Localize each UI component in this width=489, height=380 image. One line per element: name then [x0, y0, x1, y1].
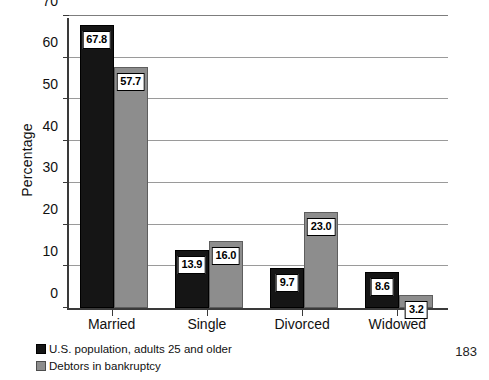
x-tick-label-divorced: Divorced [275, 316, 330, 332]
y-tick-mark-40 [63, 140, 69, 141]
gridline-70 [69, 15, 448, 16]
bar-married-series2: 57.7 [114, 67, 148, 308]
y-tick-label-50: 50 [42, 76, 58, 92]
bar-value-label: 9.7 [276, 274, 299, 292]
bar-divorced-series1: 9.7 [270, 268, 304, 308]
y-axis-title: Percentage [19, 80, 35, 240]
bar-widowed-series2: 3.2 [399, 295, 433, 308]
bar-value-label: 57.7 [116, 73, 145, 91]
x-tick-label-single: Single [187, 316, 226, 332]
chart-legend: U.S. population, adults 25 and older Deb… [36, 341, 232, 375]
y-tick-label-0: 0 [50, 285, 58, 301]
x-tick-label-widowed: Widowed [369, 316, 427, 332]
bar-value-label: 16.0 [212, 247, 241, 265]
y-tick-mark-20 [63, 224, 69, 225]
legend-label-debtors: Debtors in bankruptcy [49, 360, 161, 372]
page-number: 183 [455, 344, 477, 359]
plot-area: 01020304050607067.857.713.916.09.723.08.… [67, 18, 448, 310]
legend-swatch-dark [36, 344, 46, 354]
bar-single-series1: 13.9 [175, 250, 209, 308]
y-tick-label-30: 30 [42, 159, 58, 175]
y-tick-mark-60 [63, 57, 69, 58]
bar-value-label: 8.6 [371, 278, 394, 296]
bar-widowed-series1: 8.6 [365, 272, 399, 308]
y-tick-mark-70 [63, 15, 69, 16]
y-tick-mark-0 [63, 307, 69, 308]
legend-item-debtors: Debtors in bankruptcy [36, 358, 232, 373]
y-tick-label-40: 40 [42, 118, 58, 134]
legend-item-us-population: U.S. population, adults 25 and older [36, 341, 232, 356]
legend-swatch-light [36, 361, 46, 371]
y-tick-label-20: 20 [42, 201, 58, 217]
y-tick-mark-50 [63, 98, 69, 99]
bar-chart-figure: Percentage 01020304050607067.857.713.916… [0, 0, 489, 380]
y-tick-label-10: 10 [42, 243, 58, 259]
y-tick-label-60: 60 [42, 34, 58, 50]
gridline-60 [69, 57, 448, 58]
bar-married-series1: 67.8 [80, 25, 114, 308]
bar-single-series2: 16.0 [209, 241, 243, 308]
legend-label-us-population: U.S. population, adults 25 and older [49, 343, 232, 355]
bar-value-label: 67.8 [82, 31, 111, 49]
y-tick-mark-30 [63, 182, 69, 183]
y-tick-mark-10 [63, 265, 69, 266]
x-tick-label-married: Married [88, 316, 135, 332]
bar-value-label: 13.9 [178, 256, 207, 274]
y-tick-label-70: 70 [42, 0, 58, 9]
bar-value-label: 23.0 [307, 218, 336, 236]
bar-divorced-series2: 23.0 [304, 212, 338, 308]
